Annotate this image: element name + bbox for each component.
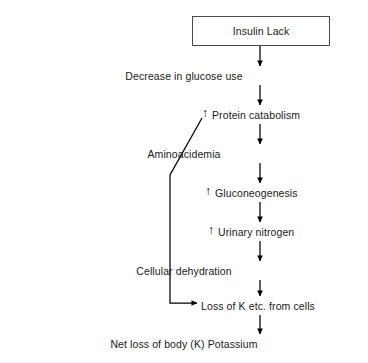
increase-marker-glyph: ↑ [205, 184, 211, 198]
node-urinary-nitrogen: Urinary nitrogen [218, 226, 294, 239]
node-cellular-dehydration: Cellular dehydration [0, 265, 368, 278]
node-loss-of-k-from-cells-label: Loss of K etc. from cells [201, 300, 315, 312]
node-decrease-glucose-use: Decrease in glucose use [0, 70, 368, 83]
increase-marker-glyph: ↑ [208, 223, 214, 237]
node-protein-catabolism: Protein catabolism [212, 109, 300, 122]
node-net-loss-potassium: Net loss of body (K) Potassium [0, 338, 368, 351]
increase-marker-glyph: ↑ [202, 106, 208, 120]
increase-arrow-icon-gluconeogenesis: ↑ [205, 185, 211, 198]
flowchart-canvas: Insulin Lack Decrease in glucose use ↑ P… [0, 0, 368, 363]
node-insulin-lack-label: Insulin Lack [233, 25, 290, 37]
node-cellular-dehydration-label: Cellular dehydration [136, 265, 231, 277]
increase-arrow-icon-protein-catabolism: ↑ [202, 107, 208, 120]
node-insulin-lack: Insulin Lack [192, 16, 330, 46]
node-aminoacidemia-label: Aminoacidemia [147, 148, 220, 160]
node-protein-catabolism-label: Protein catabolism [212, 109, 300, 121]
node-net-loss-potassium-label: Net loss of body (K) Potassium [110, 338, 257, 350]
node-gluconeogenesis-label: Gluconeogenesis [215, 187, 298, 199]
node-urinary-nitrogen-label: Urinary nitrogen [218, 226, 294, 238]
node-aminoacidemia: Aminoacidemia [0, 148, 368, 161]
increase-arrow-icon-urinary-nitrogen: ↑ [208, 224, 214, 237]
node-loss-of-k-from-cells: Loss of K etc. from cells [201, 300, 315, 313]
node-decrease-glucose-use-label: Decrease in glucose use [125, 70, 242, 82]
node-gluconeogenesis: Gluconeogenesis [215, 187, 298, 200]
